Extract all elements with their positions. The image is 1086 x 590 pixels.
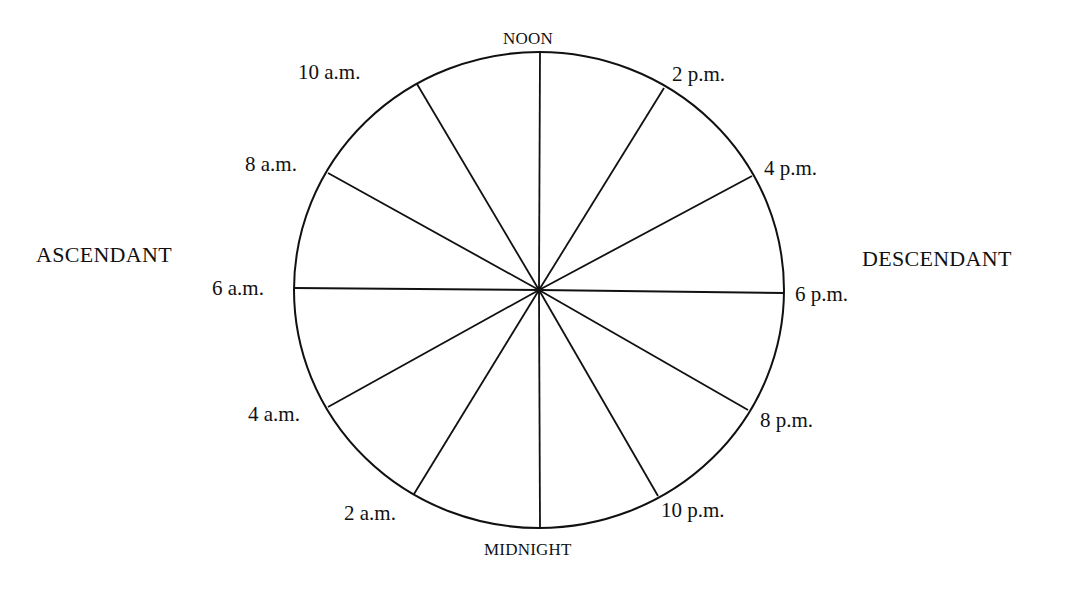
- label-2pm: 2 p.m.: [672, 64, 725, 85]
- label-4pm: 4 p.m.: [764, 158, 817, 179]
- label-ascendant: ASCENDANT: [36, 244, 172, 266]
- spoke-2am: [414, 290, 539, 494]
- spoke-2pm: [539, 88, 664, 290]
- label-noon: NOON: [503, 30, 553, 47]
- label-midnight: MIDNIGHT: [484, 541, 572, 558]
- clock-wheel-diagram: [0, 0, 1086, 590]
- label-6am: 6 a.m.: [212, 278, 264, 299]
- spoke-8pm: [539, 290, 748, 410]
- label-descendant: DESCENDANT: [862, 248, 1012, 270]
- label-10am: 10 a.m.: [298, 62, 360, 83]
- spoke-midnight: [539, 290, 540, 528]
- label-4am: 4 a.m.: [248, 404, 300, 425]
- label-6pm: 6 p.m.: [795, 284, 848, 305]
- spoke-noon: [539, 52, 540, 290]
- spoke-6pm: [539, 290, 784, 293]
- label-2am: 2 a.m.: [344, 503, 396, 524]
- spoke-4am: [328, 290, 539, 407]
- label-8am: 8 a.m.: [245, 154, 297, 175]
- spoke-10am: [417, 84, 539, 290]
- spoke-8am: [328, 173, 539, 290]
- wheel-center-point: [536, 287, 542, 293]
- spoke-10pm: [539, 290, 658, 496]
- label-10pm: 10 p.m.: [661, 500, 725, 521]
- label-8pm: 8 p.m.: [760, 410, 813, 431]
- spoke-6am: [294, 288, 539, 290]
- spoke-4pm: [539, 176, 752, 290]
